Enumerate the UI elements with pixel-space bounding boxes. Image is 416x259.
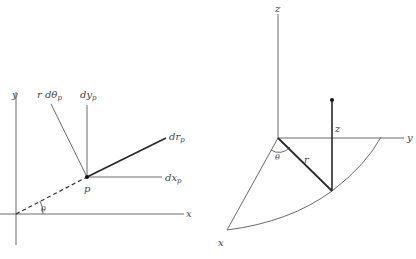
diagram-canvas: y x p θ r dθp dyp drp dxp z y x θ r z — [0, 0, 416, 259]
x-axis-label: x — [218, 237, 224, 248]
dr-vector — [87, 138, 166, 177]
point-p-label: p — [84, 183, 91, 194]
x-axis — [227, 138, 278, 230]
y-axis-label: y — [11, 89, 18, 100]
polar-differential-figure: y x p θ r dθp dyp drp dxp — [0, 89, 192, 245]
theta-label: θ — [275, 153, 280, 162]
radius-dashed-line — [16, 177, 87, 214]
cylindrical-coordinates-figure: z y x θ r z — [218, 3, 413, 248]
base-arc — [227, 137, 381, 230]
theta-label: θ — [41, 205, 46, 214]
r-dtheta-label: r dθp — [37, 89, 62, 102]
y-axis-label: y — [406, 132, 413, 143]
z-axis-label: z — [274, 3, 281, 14]
dx-label: dxp — [165, 172, 182, 185]
dy-label: dyp — [80, 89, 97, 102]
dr-label: drp — [169, 131, 185, 144]
point-p — [85, 175, 89, 179]
r-dtheta-vector — [51, 104, 87, 177]
x-axis-label: x — [186, 208, 192, 219]
height-label: z — [334, 123, 341, 134]
radius-label: r — [304, 154, 310, 165]
point-dot — [330, 98, 334, 102]
